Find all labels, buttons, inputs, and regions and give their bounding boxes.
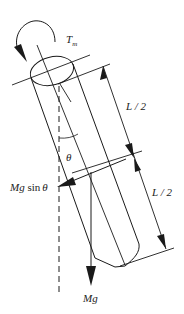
weight-arrowhead-icon	[86, 266, 96, 286]
torque-arrow-icon	[14, 21, 55, 62]
cylinder-inner-line	[60, 84, 71, 102]
bottom-extension-line	[120, 248, 174, 266]
theta-arc	[59, 134, 78, 138]
dim-arrow-lower-bottom	[157, 234, 166, 249]
dim-arrow-lower-top	[134, 158, 141, 172]
torque-label: Tm	[66, 33, 77, 48]
cylinder-bottom-end	[95, 244, 139, 267]
cylinder-center-axis	[37, 45, 125, 265]
cylinder-diagram: Tm θ L / 2 L / 2 Mg sinθ Mg	[0, 0, 184, 314]
upper-half-length-label: L / 2	[125, 100, 146, 112]
theta-label: θ	[66, 151, 72, 163]
dim-arrow-upper-top	[100, 66, 107, 80]
lower-half-length-label: L / 2	[151, 186, 172, 198]
cylinder-left-edge	[31, 78, 95, 258]
tangential-force-label: Mg sinθ	[9, 181, 48, 193]
cylinder-top-ellipse	[27, 52, 76, 90]
dimension-line	[103, 66, 166, 249]
weight-label: Mg	[82, 292, 98, 304]
